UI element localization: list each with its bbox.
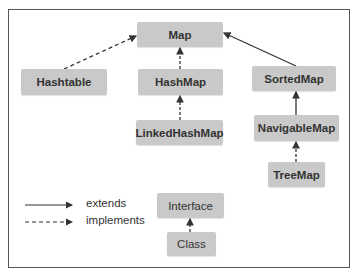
node-hashmap: HashMap — [138, 69, 223, 95]
node-linkedhashmap: LinkedHashMap — [136, 120, 223, 145]
node-treemap: TreeMap — [268, 162, 325, 187]
legend-interface-box: Interface — [157, 193, 224, 218]
node-sortedmap: SortedMap — [252, 66, 336, 91]
edge-hashtable-map — [64, 36, 136, 69]
node-navigablemap: NavigableMap — [254, 115, 339, 141]
edge-sortedmap-map — [224, 33, 296, 66]
legend-class-box: Class — [167, 232, 216, 256]
legend-extends-label: extends — [86, 197, 126, 209]
node-hashtable: Hashtable — [21, 69, 107, 95]
legend-implements-label: implements — [86, 214, 145, 226]
node-map: Map — [137, 22, 223, 47]
